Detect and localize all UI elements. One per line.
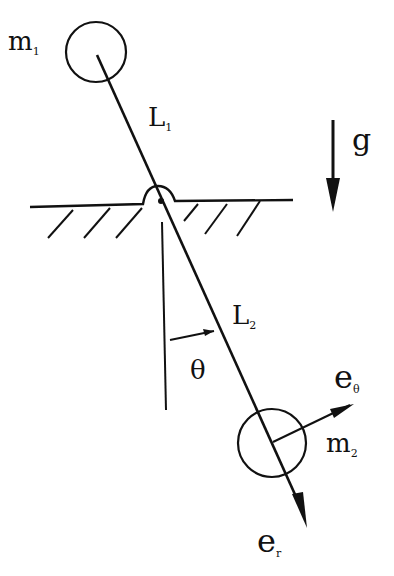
rod [97, 55, 302, 510]
label-e-r: er [257, 522, 281, 560]
label-L1: L1 [148, 102, 172, 132]
label-m2: m2 [326, 428, 358, 458]
label-theta: θ [190, 355, 206, 385]
diagram-canvas [0, 0, 394, 576]
gravity-arrowhead [326, 178, 340, 212]
label-e-theta: eθ [334, 358, 360, 396]
e-r-arrowhead [292, 492, 307, 528]
label-g: g [352, 122, 371, 157]
vertical-reference-line [162, 222, 166, 410]
label-L2: L2 [232, 300, 256, 330]
pivot-point [158, 198, 164, 204]
e-theta-arrowhead [330, 404, 354, 418]
pendulum-diagram: m1 L1 g L2 θ eθ m2 er [0, 0, 394, 576]
mass-1-circle [66, 22, 126, 82]
label-m1: m1 [8, 26, 40, 56]
theta-arrowhead [203, 329, 214, 336]
